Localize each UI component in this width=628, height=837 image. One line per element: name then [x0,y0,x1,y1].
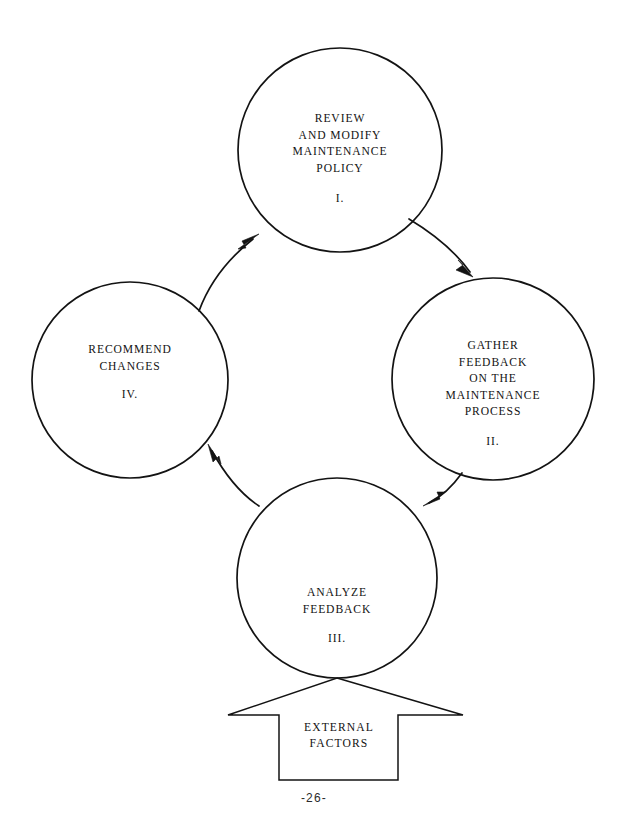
node-1-line-1: AND MODIFY [299,129,382,142]
connector-4-1-curve [199,239,253,311]
connector-node-4-to-node-1 [199,234,259,311]
node-2-line-0: GATHER [467,339,518,352]
node-2-line-2: ON THE [469,372,516,385]
connector-node-1-to-node-2 [409,219,473,277]
node-1-line-0: REVIEW [315,112,365,125]
node-1-line-3: POLICY [316,162,363,175]
node-4-line-1: CHANGES [99,360,160,373]
connector-2-3-arrowhead [423,492,445,506]
connector-1-2-curve [409,219,470,272]
node-gather-feedback-on-the-maintenance-process[interactable]: GATHER FEEDBACK ON THE MAINTENANCE PROCE… [392,278,594,480]
external-factors-banner[interactable]: EXTERNAL FACTORS [228,678,463,780]
node-4-numeral: IV. [122,388,138,401]
node-2-line-4: PROCESS [465,405,522,418]
node-3-line-0: ANALYZE [307,586,367,599]
node-2-numeral: II. [486,435,499,448]
node-2-line-3: MAINTENANCE [446,389,541,402]
connector-3-4-arrowhead [208,444,221,464]
node-analyze-feedback[interactable]: ANALYZE FEEDBACK III. [237,478,437,678]
node-3-numeral: III. [328,632,346,645]
connector-node-2-to-node-3 [423,473,462,506]
page-number: -26- [0,791,628,805]
node-3-circle [237,478,437,678]
connector-node-3-to-node-4 [208,444,259,506]
page-canvas: REVIEW AND MODIFY MAINTENANCE POLICY I. … [0,0,628,837]
node-2-line-1: FEEDBACK [459,356,527,369]
external-factors-line-0: EXTERNAL [304,721,374,734]
connector-1-2-arrowhead [456,260,473,277]
node-1-line-2: MAINTENANCE [293,145,388,158]
external-factors-line-1: FACTORS [310,737,369,750]
connector-2-3-curve [429,473,462,503]
connector-4-1-arrowhead [238,234,259,249]
cycle-diagram: REVIEW AND MODIFY MAINTENANCE POLICY I. … [0,0,628,837]
node-1-numeral: I. [336,192,345,205]
node-4-line-0: RECOMMEND [88,343,171,356]
node-3-line-1: FEEDBACK [303,603,371,616]
